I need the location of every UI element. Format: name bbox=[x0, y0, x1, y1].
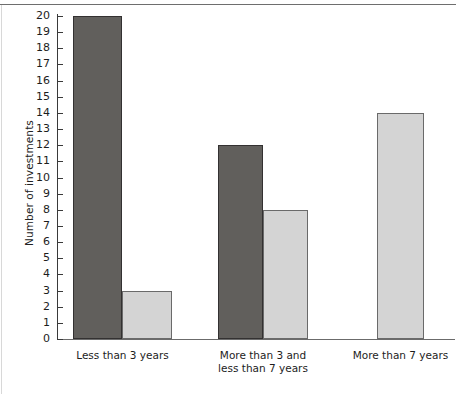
y-axis-tick bbox=[57, 274, 63, 275]
y-axis-tick bbox=[57, 16, 63, 17]
y-axis-tick-label: 6 bbox=[22, 236, 50, 247]
y-axis-tick bbox=[57, 210, 63, 211]
y-axis-tick-label-text: 5 bbox=[24, 252, 50, 263]
y-axis-tick-label: 5 bbox=[22, 252, 50, 263]
y-axis-tick-label-text: 11 bbox=[24, 155, 50, 166]
y-axis-tick bbox=[57, 145, 63, 146]
y-axis-tick-label-text: 2 bbox=[24, 301, 50, 312]
y-axis-tick-label-text: 10 bbox=[24, 172, 50, 183]
y-axis-tick bbox=[57, 242, 63, 243]
y-axis-tick-label: 9 bbox=[22, 188, 50, 199]
y-axis-tick bbox=[57, 226, 63, 227]
y-axis-tick bbox=[57, 81, 63, 82]
y-axis-tick bbox=[57, 178, 63, 179]
bar bbox=[377, 113, 424, 339]
y-axis-tick-label-text: 1 bbox=[24, 317, 50, 328]
y-axis-tick-label: 1 bbox=[22, 317, 50, 328]
y-axis-tick bbox=[57, 97, 63, 98]
y-axis-tick bbox=[57, 113, 63, 114]
y-axis-tick bbox=[57, 291, 63, 292]
y-axis-tick-label: 17 bbox=[22, 58, 50, 69]
x-axis-category-label: Less than 3 years bbox=[43, 349, 203, 362]
x-axis-line bbox=[57, 339, 455, 340]
y-axis-tick-label: 19 bbox=[22, 26, 50, 37]
y-axis-tick-label: 8 bbox=[22, 204, 50, 215]
y-axis-tick-label: 18 bbox=[22, 42, 50, 53]
y-axis-tick-label-text: 19 bbox=[24, 26, 50, 37]
y-axis-tick-label-text: 14 bbox=[24, 107, 50, 118]
y-axis-tick bbox=[57, 129, 63, 130]
y-axis-tick-label: 4 bbox=[22, 268, 50, 279]
bar bbox=[73, 16, 122, 339]
y-axis-tick bbox=[57, 339, 63, 340]
bar bbox=[263, 210, 308, 339]
y-axis-tick-label-text: 17 bbox=[24, 58, 50, 69]
y-axis-tick-label-text: 3 bbox=[24, 285, 50, 296]
y-axis-tick-label-text: 9 bbox=[24, 188, 50, 199]
y-axis-tick-label: 13 bbox=[22, 123, 50, 134]
y-axis-tick-label: 14 bbox=[22, 107, 50, 118]
y-axis-tick-label: 16 bbox=[22, 75, 50, 86]
bar-chart: Number of investments 012345678910111213… bbox=[0, 0, 470, 394]
y-axis-tick bbox=[57, 258, 63, 259]
y-axis-tick-label: 3 bbox=[22, 285, 50, 296]
y-axis-tick bbox=[57, 161, 63, 162]
y-axis-tick-label: 7 bbox=[22, 220, 50, 231]
y-axis-tick-label-text: 13 bbox=[24, 123, 50, 134]
y-axis-tick-label-text: 0 bbox=[24, 333, 50, 344]
bar bbox=[122, 291, 172, 339]
x-axis-category-label: More than 3 and less than 7 years bbox=[183, 349, 343, 375]
y-axis-tick-label: 0 bbox=[22, 333, 50, 344]
y-axis-tick-label-text: 6 bbox=[24, 236, 50, 247]
y-axis-tick-label-text: 20 bbox=[24, 10, 50, 21]
y-axis-tick-label-text: 7 bbox=[24, 220, 50, 231]
y-axis-tick-label-text: 4 bbox=[24, 268, 50, 279]
y-axis-tick bbox=[57, 323, 63, 324]
y-axis-tick-label: 11 bbox=[22, 155, 50, 166]
y-axis-tick-label: 10 bbox=[22, 172, 50, 183]
y-axis-tick-label-text: 15 bbox=[24, 91, 50, 102]
y-axis-tick-label-text: 18 bbox=[24, 42, 50, 53]
y-axis-tick bbox=[57, 307, 63, 308]
y-axis-tick-label: 12 bbox=[22, 139, 50, 150]
y-axis-tick-label-text: 8 bbox=[24, 204, 50, 215]
y-axis-tick-label-text: 16 bbox=[24, 75, 50, 86]
y-axis-tick-label: 15 bbox=[22, 91, 50, 102]
y-axis-tick bbox=[57, 32, 63, 33]
y-axis-tick bbox=[57, 64, 63, 65]
y-axis-tick-label: 2 bbox=[22, 301, 50, 312]
y-axis-tick-label: 20 bbox=[22, 10, 50, 21]
bar bbox=[218, 145, 263, 339]
y-axis-tick-label-text: 12 bbox=[24, 139, 50, 150]
y-axis-tick bbox=[57, 194, 63, 195]
y-axis-tick bbox=[57, 48, 63, 49]
x-axis-category-label: More than 7 years bbox=[321, 349, 470, 362]
